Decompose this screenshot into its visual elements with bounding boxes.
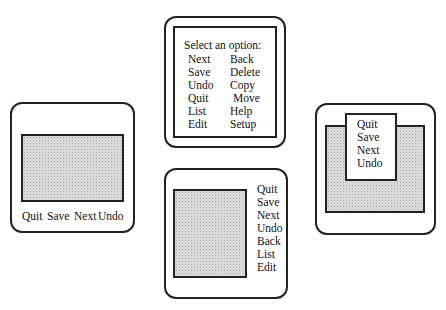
menu-item-list[interactable]: List: [188, 105, 214, 118]
side-menu-item-edit[interactable]: Edit: [257, 261, 283, 274]
menubar-item-quit[interactable]: Quit: [22, 210, 42, 223]
menu-item-copy[interactable]: Copy: [230, 79, 260, 92]
popup-item-save[interactable]: Save: [357, 131, 383, 144]
popup-item-next[interactable]: Next: [357, 144, 383, 157]
menu-item-back[interactable]: Back: [230, 53, 260, 66]
menu-item-edit[interactable]: Edit: [188, 118, 214, 131]
side-menu-item-next[interactable]: Next: [257, 209, 283, 222]
popup-menu-items: Quit Save Next Undo: [357, 118, 383, 170]
side-menu-item-quit[interactable]: Quit: [257, 183, 283, 196]
popup-item-quit[interactable]: Quit: [357, 118, 383, 131]
menu-item-save[interactable]: Save: [188, 66, 214, 79]
menu-item-delete[interactable]: Delete: [230, 66, 260, 79]
popup-item-undo[interactable]: Undo: [357, 157, 383, 170]
side-menu: Quit Save Next Undo Back List Edit: [257, 183, 283, 274]
menu-item-setup[interactable]: Setup: [230, 118, 260, 131]
content-area: [173, 189, 247, 278]
content-area: [21, 134, 124, 202]
full-menu-prompt: Select an option:: [184, 39, 261, 52]
full-menu-right-column: Back Delete Copy Move Help Setup: [230, 53, 260, 131]
side-menu-item-save[interactable]: Save: [257, 196, 283, 209]
menubar-item-undo[interactable]: Undo: [98, 210, 124, 223]
menu-item-next[interactable]: Next: [188, 53, 214, 66]
menubar-item-save[interactable]: Save: [47, 210, 69, 223]
menu-item-quit[interactable]: Quit: [188, 92, 214, 105]
side-menu-item-back[interactable]: Back: [257, 235, 283, 248]
menubar-item-next[interactable]: Next: [74, 210, 96, 223]
menu-item-move[interactable]: Move: [230, 92, 260, 105]
menu-item-help[interactable]: Help: [230, 105, 260, 118]
full-menu-left-column: Next Save Undo Quit List Edit: [188, 53, 214, 131]
side-menu-item-list[interactable]: List: [257, 248, 283, 261]
menu-item-undo[interactable]: Undo: [188, 79, 214, 92]
side-menu-item-undo[interactable]: Undo: [257, 222, 283, 235]
